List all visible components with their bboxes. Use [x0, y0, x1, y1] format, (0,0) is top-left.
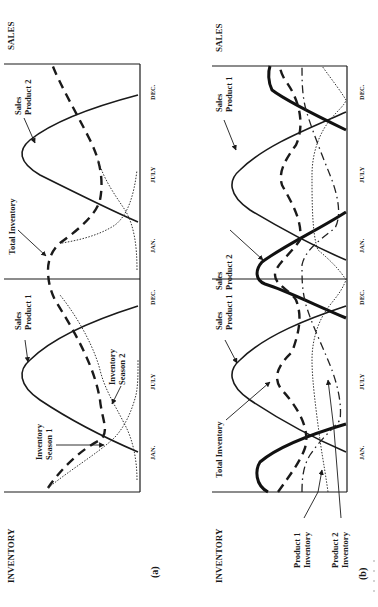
panel-b-annot-sales-p1-second-line1: Sales [214, 93, 224, 112]
panel-b-sales-product-2-c [269, 66, 346, 130]
panel-a-tick-jan-2: JAN. [149, 238, 156, 253]
panel-b-annot-total-inventory: Total Inventory [214, 421, 224, 478]
panel-b: JAN. JULY DEC. JAN. JULY DEC. INVENTORY … [212, 23, 369, 583]
panel-b-tick-jan-2: JAN. [358, 238, 365, 253]
panel-b-arrow-total-inventory [226, 382, 270, 420]
panel-b-sales-product-2-a [257, 424, 346, 492]
panel-b-label: (b) [357, 568, 369, 580]
panel-b-tick-dec-1: DEC. [358, 289, 365, 305]
panel-b-annot-p1-inv-line1: Product 1 [292, 533, 302, 569]
panel-a-label: (a) [149, 566, 161, 578]
panel-a-annot-sales-p1-line2: Product 1 [23, 295, 33, 331]
panel-a-annot-sales-p1-line1: Sales [13, 311, 23, 330]
panel-b-arrow-sales-p1-second [224, 120, 236, 150]
panel-a-total-inventory [48, 64, 105, 488]
panel-b-arrow-sales-p2 [230, 230, 263, 260]
panel-a-tick-dec-1: DEC. [149, 289, 156, 305]
panel-a-tick-july-2: JULY [149, 166, 156, 183]
panel-b-annot-p1-inv-line2: Inventory [302, 531, 312, 568]
panel-b-arrow-p1-inv [304, 470, 322, 518]
panel-a-annot-sales-p2-line1: Sales [13, 96, 23, 115]
panel-b-annot-p2-inv-line2: Inventory [340, 531, 350, 568]
panel-b-tick-july-1: JULY [358, 373, 365, 390]
panel-a-inventory-upper-season-2 [98, 160, 137, 270]
panel-b-tick-jan-1: JAN. [358, 445, 365, 460]
panel-b-inventory-label: INVENTORY [214, 528, 224, 583]
panel-b-annot-sales-p2-line1: Sales [214, 271, 224, 290]
panel-a-annot-total-inventory: Total Inventory [7, 198, 17, 255]
panel-a-annot-inv-s1-line1: Inventory [34, 423, 44, 460]
panel-a-tick-july-1: JULY [149, 373, 156, 390]
panel-a-annot-sales-p2-line2: Product 2 [23, 80, 33, 116]
rotated-figure: JAN. JULY DEC. JAN. JULY DEC. INVENTORY … [0, 0, 378, 607]
panel-a-arrow-sales-p1 [25, 340, 28, 362]
panel-b-annot-p2-inv-line1: Product 2 [330, 533, 340, 569]
panel-a: JAN. JULY DEC. JAN. JULY DEC. INVENTORY … [4, 21, 161, 583]
panel-a-arrow-sales-p2 [24, 118, 35, 143]
panel-a-sales-label: SALES [6, 21, 16, 50]
panel-a-annot-inv-s2-line2: Season 2 [117, 354, 127, 385]
panel-a-annot-inv-s2-line1: Inventory [107, 348, 117, 385]
panel-b-annot-sales-p2-line2: Product 2 [224, 255, 234, 291]
panel-a-tick-jan-1: JAN. [149, 445, 156, 460]
panel-b-annot-sales-p1-second-line2: Product 1 [224, 77, 234, 113]
panel-a-tick-dec-2: DEC. [149, 84, 156, 100]
panel-a-inventory-label: INVENTORY [6, 528, 16, 583]
panel-b-arrow-sales-p1-first [225, 340, 237, 363]
panel-a-annot-inv-s1-line2: Season 1 [44, 429, 54, 460]
panel-a-arrow-total-inventory [18, 230, 46, 256]
panel-b-sales-product-1-year2 [232, 112, 346, 260]
panel-b-sales-label: SALES [214, 23, 224, 52]
panel-b-annot-sales-p1-first-line1: Sales [214, 311, 224, 330]
panel-b-tick-july-2: JULY [358, 166, 365, 183]
panel-b-annot-sales-p1-first-line2: Product 1 [224, 295, 234, 331]
panel-a-arrow-inv-s2 [112, 386, 121, 404]
panel-b-tick-dec-2: DEC. [358, 84, 365, 100]
